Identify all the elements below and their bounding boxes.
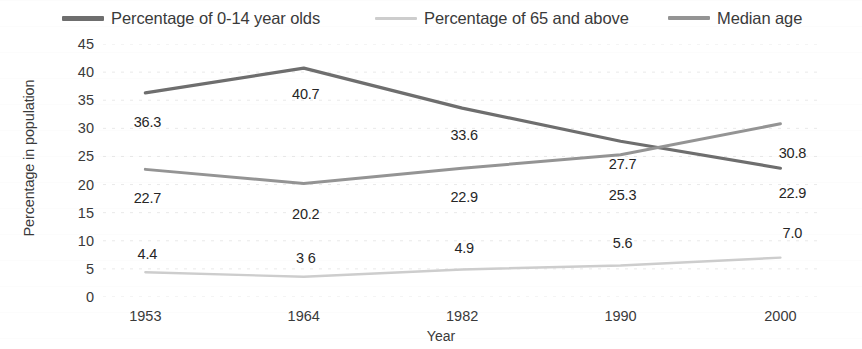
y-axis-tick-label: 0 [48, 289, 94, 305]
x-axis-tick-label: 2000 [764, 308, 796, 324]
data-point-label: 20.2 [292, 206, 319, 222]
y-axis-tick-labels: 454035302520151050 [0, 0, 94, 349]
series-line[interactable] [145, 68, 780, 168]
data-point-label: 40.7 [292, 86, 319, 102]
y-axis-tick-label: 45 [48, 36, 94, 52]
data-point-label: 33.6 [450, 127, 477, 143]
line-chart: Percentage of 0-14 year olds Percentage … [0, 0, 862, 349]
y-axis-tick-label: 40 [48, 64, 94, 80]
y-axis-tick-label: 20 [48, 177, 94, 193]
y-axis-tick-label: 35 [48, 92, 94, 108]
data-point-label: 22.9 [779, 185, 806, 201]
y-axis-tick-label: 25 [48, 148, 94, 164]
legend-item-label: Percentage of 0-14 year olds [111, 4, 320, 32]
data-point-label: 4.4 [138, 246, 158, 262]
y-axis-tick-label: 15 [48, 205, 94, 221]
x-axis-tick-label: 1982 [446, 308, 478, 324]
legend-item-label: Percentage of 65 and above [424, 4, 629, 32]
x-axis-tick-label: 1953 [129, 308, 161, 324]
legend-item-label: Median age [717, 4, 802, 32]
data-point-label: 22.7 [134, 190, 161, 206]
data-point-label: 5.6 [613, 235, 633, 251]
series-line[interactable] [145, 258, 780, 277]
legend-line-swatch-icon [375, 17, 417, 20]
data-point-label: 30.8 [779, 145, 806, 161]
y-axis-tick-label: 10 [48, 233, 94, 249]
y-axis-tick-label: 30 [48, 120, 94, 136]
data-point-label: 25.3 [609, 187, 636, 203]
legend-line-swatch-icon [668, 16, 710, 20]
x-axis-tick-label: 1990 [604, 308, 636, 324]
data-point-label: 7.0 [783, 225, 803, 241]
legend-item-percentage-0-14[interactable]: Percentage of 0-14 year olds [62, 4, 320, 32]
x-axis-title: Year [0, 328, 862, 344]
chart-legend: Percentage of 0-14 year olds Percentage … [0, 4, 862, 32]
y-axis-tick-label: 5 [48, 261, 94, 277]
legend-item-percentage-65-above[interactable]: Percentage of 65 and above [375, 4, 629, 32]
data-point-label: 27.7 [609, 156, 636, 172]
data-point-label: 22.9 [450, 189, 477, 205]
x-axis-tick-label: 1964 [288, 308, 320, 324]
legend-item-median-age[interactable]: Median age [668, 4, 802, 32]
data-point-label: 4.9 [454, 240, 474, 256]
series-lines [100, 44, 820, 297]
plot-area [100, 44, 820, 297]
data-point-label: 3 6 [296, 250, 316, 266]
data-point-label: 36.3 [134, 114, 161, 130]
